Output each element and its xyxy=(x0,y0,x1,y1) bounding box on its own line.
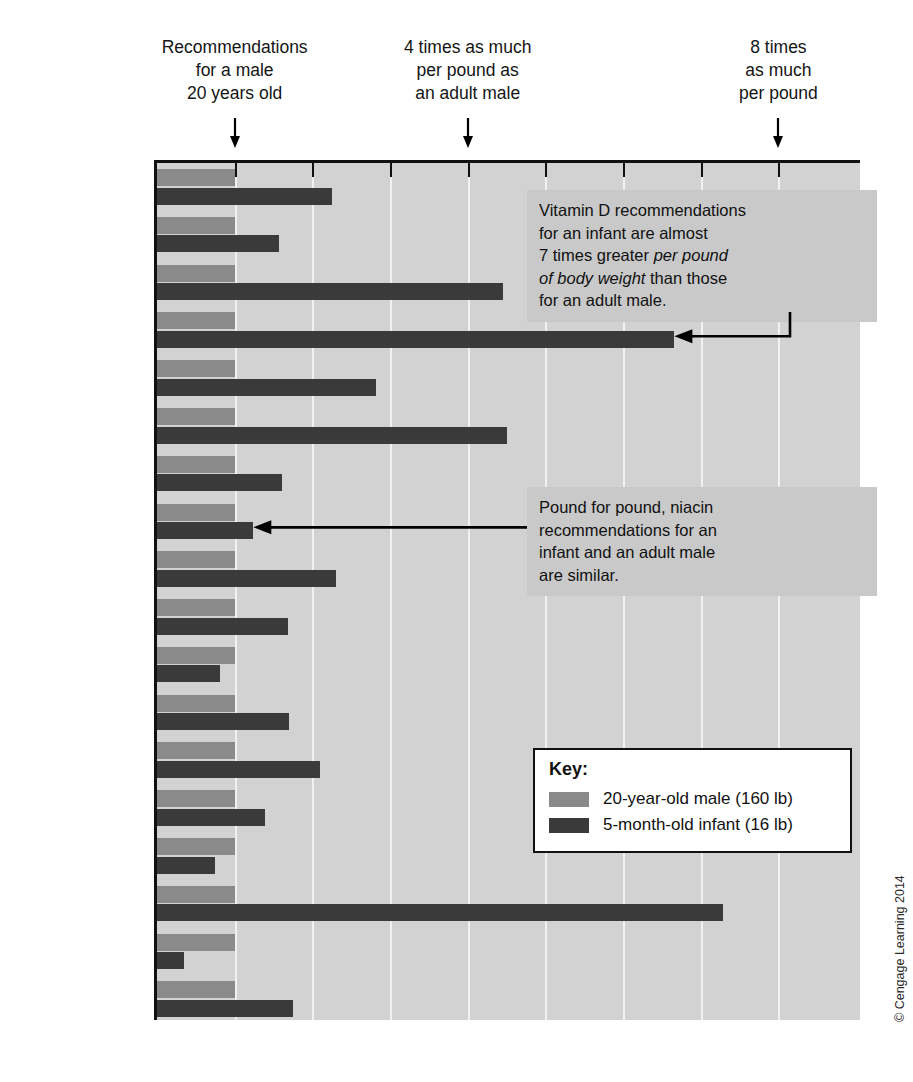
legend-label-infant: 5-month-old infant (16 lb) xyxy=(603,815,793,835)
legend-entry-infant: 5-month-old infant (16 lb) xyxy=(549,815,836,835)
chart-legend: Key: 20-year-old male (160 lb)5-month-ol… xyxy=(533,748,852,853)
nutrient-recommendations-figure: Recommendationsfor a male20 years old4 t… xyxy=(0,0,913,1082)
leader-line-niacin xyxy=(0,0,913,1082)
legend-swatch-adult xyxy=(549,792,589,807)
legend-swatch-infant xyxy=(549,818,589,833)
legend-entry-adult: 20-year-old male (160 lb) xyxy=(549,789,836,809)
legend-title: Key: xyxy=(549,759,836,780)
copyright-credit: © Cengage Learning 2014 xyxy=(893,875,907,1022)
legend-entries: 20-year-old male (160 lb)5-month-old inf… xyxy=(549,789,836,835)
legend-label-adult: 20-year-old male (160 lb) xyxy=(603,789,793,809)
